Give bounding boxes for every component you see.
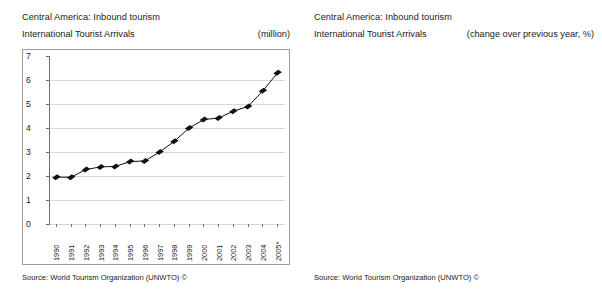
- left-chart-units: (million): [258, 29, 290, 39]
- right-chart-title: Central America: Inbound tourism: [314, 12, 594, 22]
- right-chart-titles: Central America: Inbound tourism Interna…: [314, 12, 594, 39]
- left-chart-title: Central America: Inbound tourism: [22, 12, 290, 22]
- left-chart-subtitle: International Tourist Arrivals: [22, 29, 135, 39]
- left-chart-subtitle-row: International Tourist Arrivals (million): [22, 29, 290, 39]
- right-chart-subtitle-row: International Tourist Arrivals (change o…: [314, 29, 594, 39]
- line-chart-x-tick-label: 1990: [52, 227, 61, 261]
- line-chart-x-tick-label: 1997: [156, 227, 165, 261]
- line-chart-x-tick-label: 1993: [97, 227, 106, 261]
- line-chart-x-tick-label: 2000: [200, 227, 209, 261]
- line-chart-x-tick-label: 2004: [259, 227, 268, 261]
- right-chart-subtitle: International Tourist Arrivals: [314, 29, 427, 39]
- left-chart-source: Source: World Tourism Organization (UNWT…: [22, 273, 187, 282]
- right-chart-panel: Central America: Inbound tourism Interna…: [301, 0, 602, 292]
- line-chart-plot-area: 01234567 1990199119921993199419951996199…: [22, 49, 290, 265]
- line-chart-x-tick-label: 2002: [229, 227, 238, 261]
- line-chart-x-tick-label: 1992: [82, 227, 91, 261]
- line-chart-x-tick-label: 1994: [111, 227, 120, 261]
- line-chart-x-tick-label: 2005*: [274, 227, 283, 261]
- line-chart-x-tick-label: 1996: [141, 227, 150, 261]
- figure-pair: Central America: Inbound tourism Interna…: [0, 0, 602, 292]
- line-chart-x-labels: 1990199119921993199419951996199719981999…: [23, 50, 289, 264]
- right-chart-units: (change over previous year, %): [467, 29, 594, 39]
- line-chart-x-tick-label: 2001: [215, 227, 224, 261]
- line-chart-x-tick-label: 1995: [126, 227, 135, 261]
- left-chart-panel: Central America: Inbound tourism Interna…: [0, 0, 301, 292]
- line-chart-x-tick-label: 2003: [244, 227, 253, 261]
- line-chart-x-tick-label: 1998: [170, 227, 179, 261]
- line-chart-x-tick-label: 1999: [185, 227, 194, 261]
- line-chart-x-tick-label: 1991: [67, 227, 76, 261]
- right-chart-source: Source: World Tourism Organization (UNWT…: [314, 273, 479, 282]
- left-chart-titles: Central America: Inbound tourism Interna…: [22, 12, 290, 39]
